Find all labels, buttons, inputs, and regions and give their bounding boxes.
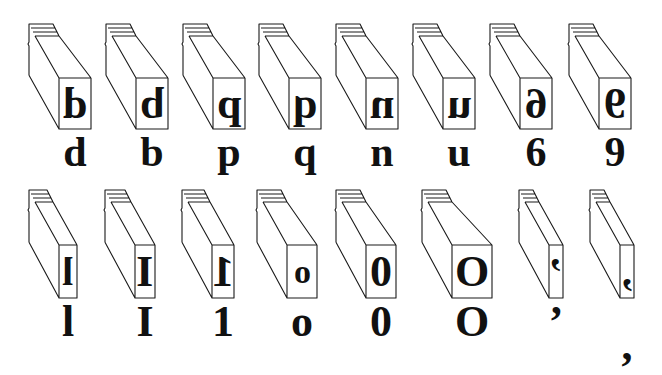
- printed-letter: ,: [610, 324, 644, 368]
- block-face-glyph: ,: [620, 245, 634, 298]
- type-blocks-figure: ddbbppqqnnuu6699llII11oo00OO’’,,: [0, 0, 662, 375]
- mirrored-letter: ,: [622, 252, 632, 292]
- type-block-outline: [0, 0, 662, 375]
